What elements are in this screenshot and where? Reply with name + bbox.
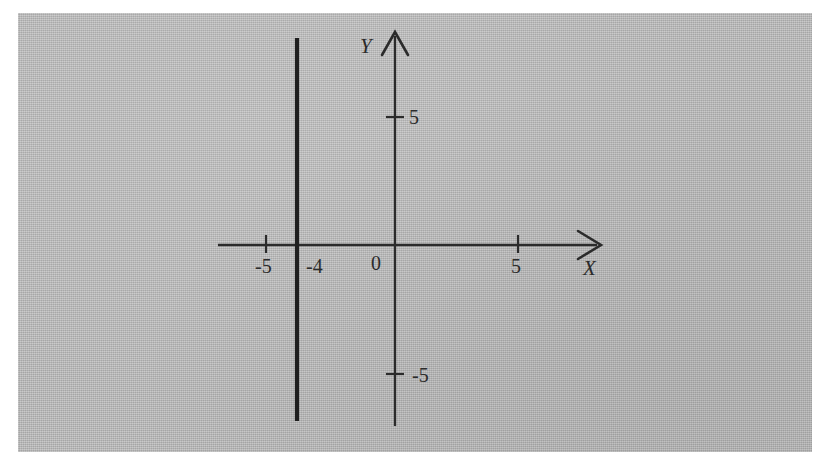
y-tick-label-5: 5 [409,107,419,127]
x-axis [218,231,601,259]
coordinate-plane-plot [0,0,825,467]
y-tick-label-minus-5: -5 [412,365,429,385]
x-tick-label-5: 5 [511,256,521,276]
y-axis [382,32,408,426]
y-axis-label: Y [360,36,372,57]
x-tick-label-minus-5: -5 [255,256,272,276]
x-axis-label: X [583,258,596,279]
origin-label: 0 [371,253,381,273]
figure-root: Y X 5 -5 -5 5 0 -4 [0,0,825,467]
vertical-line-x-intercept-label: -4 [306,256,323,276]
